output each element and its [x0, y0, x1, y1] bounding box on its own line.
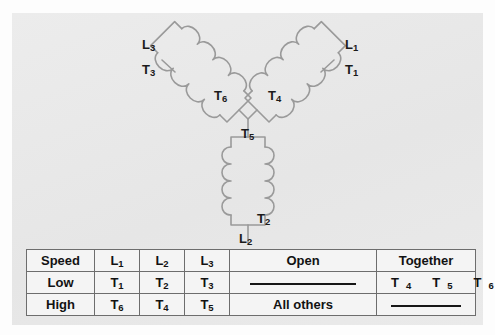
cell-high-open: All others — [230, 294, 377, 316]
cell-high-l1: T6 — [95, 294, 140, 316]
header-open: Open — [230, 250, 377, 272]
label-t4: T4 — [268, 89, 281, 102]
label-t1: T1 — [345, 63, 358, 76]
cell-low-l1: T1 — [95, 272, 140, 294]
label-l2: L2 — [239, 232, 252, 245]
cell-low-l3: T3 — [185, 272, 230, 294]
header-l2: L2 — [140, 250, 185, 272]
cell-low-together: T4T5T6 — [377, 272, 476, 294]
header-speed: Speed — [27, 250, 95, 272]
wye-node — [239, 110, 257, 119]
dash-rule-high-together — [391, 305, 462, 307]
cell-low-l2: T2 — [140, 272, 185, 294]
label-t6: T6 — [214, 89, 227, 102]
label-t2: T2 — [257, 212, 270, 225]
label-t3: T3 — [142, 63, 155, 76]
cell-low-open — [230, 272, 377, 294]
table-header-row: Speed L1 L2 L3 Open Together — [27, 250, 476, 272]
label-l3: L3 — [142, 38, 155, 51]
table-row-low: Low T1 T2 T3 T4T5T6 — [27, 272, 476, 294]
table-row-high: High T6 T4 T5 All others — [27, 294, 476, 316]
together-t4: T4 — [384, 275, 411, 290]
speed-connection-table: Speed L1 L2 L3 Open Together — [26, 249, 476, 316]
together-t6: T6 — [467, 275, 494, 290]
cell-high-l3: T5 — [185, 294, 230, 316]
cell-speed-high: High — [27, 294, 95, 316]
header-l3: L3 — [185, 250, 230, 272]
label-t5: T5 — [241, 127, 254, 140]
header-together: Together — [377, 250, 476, 272]
cell-speed-low: Low — [27, 272, 95, 294]
cell-high-l2: T4 — [140, 294, 185, 316]
figure-panel: L3 T3 L1 T1 T6 T4 T5 T2 L2 Speed L1 — [12, 13, 483, 325]
dash-rule-low-open — [250, 283, 355, 285]
together-t5: T5 — [425, 275, 452, 290]
cell-high-together — [377, 294, 476, 316]
label-l1: L1 — [345, 38, 358, 51]
header-l1: L1 — [95, 250, 140, 272]
